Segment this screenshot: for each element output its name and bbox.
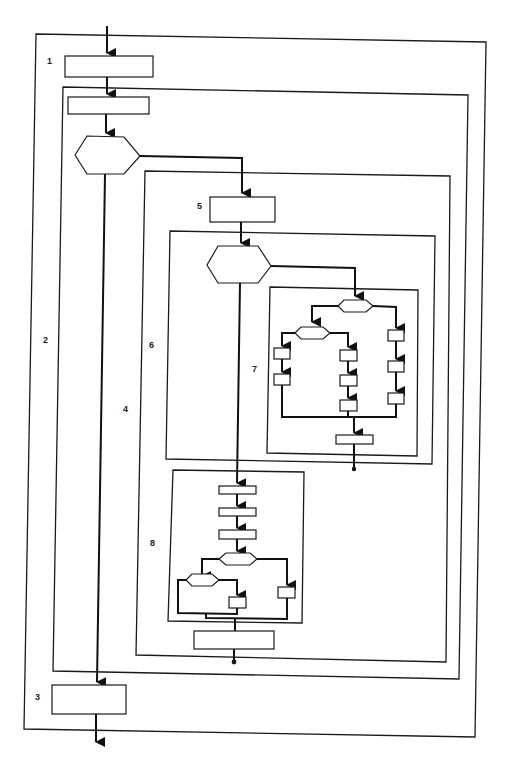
step-7-mid-2 [340,375,357,386]
step-4-final-box [194,631,274,649]
flowchart-diagram [0,0,508,768]
decision-7a-hex [295,327,330,339]
step-1-box [65,56,153,77]
step-8-3 [219,530,256,539]
step-7-left-1 [274,348,290,359]
region-label-5: 5 [197,201,202,211]
step-7-right-1 [388,330,404,341]
step-8-2 [219,508,256,516]
region-label-7: 7 [252,364,257,374]
region-label-8: 8 [150,538,155,548]
step-7-right-2 [388,361,404,372]
decision-6-hex [207,246,271,283]
decision-7-hex [338,300,373,312]
flow-7-left [312,306,338,322]
step-8-inner [229,597,246,608]
flow-7-right [373,306,396,328]
region-label-4: 4 [123,404,128,414]
step-7-final [336,435,373,444]
region-label-2: 2 [43,335,48,345]
step-5-box [210,197,275,222]
region-label-3: 3 [35,692,40,702]
flow-main-right [140,156,242,193]
terminator-7-dot [352,467,356,471]
flow-7a-right [330,333,348,347]
decision-8-hex [219,553,257,565]
flow-7-merge [282,385,396,417]
flow-8a-right [219,580,237,595]
flow-8-right [257,559,287,585]
step-8-1 [219,486,256,494]
flow-6-down [237,283,240,483]
decision-8a-hex [186,574,219,586]
decision-main-hex [75,136,140,174]
region-label-1: 1 [47,56,52,66]
step-3-box [52,685,126,714]
flow-7a-left [282,333,295,346]
step-7-right-3 [388,393,404,404]
flow-main-down [97,174,105,682]
step-7-mid-1 [340,350,357,361]
step-7-mid-3 [340,400,357,411]
step-8-right [278,587,295,598]
flow-6-right [271,266,355,296]
terminator-4-dot [232,660,237,665]
step-7-left-2 [274,374,290,385]
region-label-6: 6 [149,340,154,350]
step-2-box [68,97,149,114]
